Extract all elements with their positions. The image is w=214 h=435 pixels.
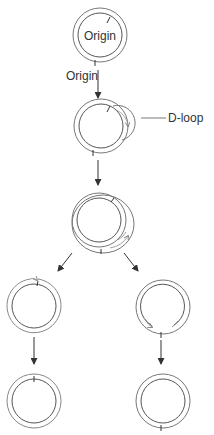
- arrow-right-icon: [124, 253, 138, 271]
- origin-label-outer: Origin: [66, 69, 98, 83]
- origin-tick-top: [107, 17, 110, 23]
- right-daughter-final: [136, 374, 190, 431]
- left-daughter-final: [7, 374, 61, 428]
- replication-diagram: Origin Origin D-loop: [0, 0, 214, 435]
- arrow-left-icon: [58, 253, 72, 271]
- right-daughter-intermediate: [136, 280, 190, 338]
- origin-label-inner: Origin: [84, 29, 116, 43]
- d-loop-label: D-loop: [168, 111, 204, 125]
- replicating-circle: [72, 193, 134, 254]
- d-loop-circle: [74, 99, 135, 156]
- left-daughter-intermediate: [7, 278, 61, 333]
- parent-circle: Origin: [73, 8, 127, 66]
